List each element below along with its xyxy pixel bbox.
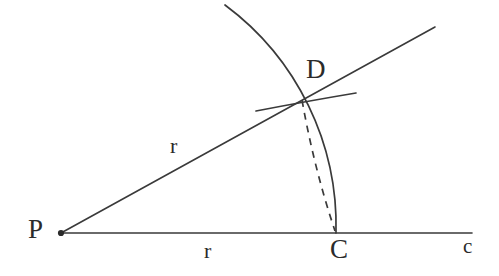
geometry-diagram: P C D c r r bbox=[0, 0, 499, 276]
label-point-d: D bbox=[306, 56, 326, 83]
geometry-canvas bbox=[0, 0, 499, 276]
vertex-point-p bbox=[58, 230, 64, 236]
radius-arc-from-p bbox=[225, 5, 336, 233]
label-line-c: c bbox=[463, 236, 472, 257]
label-radius-upper: r bbox=[170, 135, 177, 157]
label-point-c: C bbox=[330, 236, 348, 263]
label-radius-lower: r bbox=[204, 240, 211, 262]
angle-ray-pd bbox=[61, 27, 435, 233]
intersection-arc-at-d bbox=[256, 93, 356, 111]
label-point-p: P bbox=[28, 216, 43, 243]
